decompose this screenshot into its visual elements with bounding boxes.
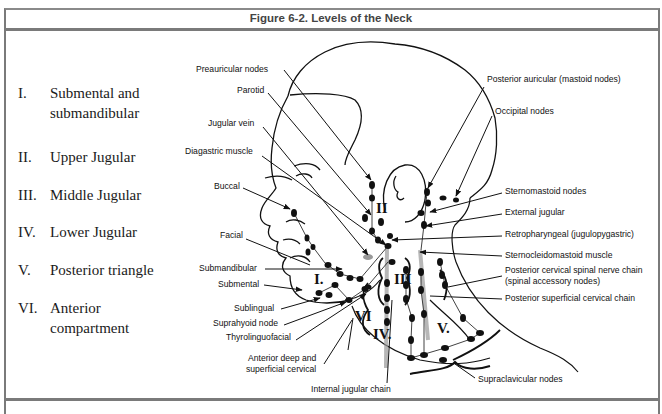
label-internal-jugular: Internal jugular chain xyxy=(311,384,391,394)
label-anterior-deep-2: superficial cervical xyxy=(246,364,316,374)
leader-retropharyngeal xyxy=(392,236,502,240)
leader-supraclavicular xyxy=(455,364,475,378)
label-posterior-superficial: Posterior superficial cervical chain xyxy=(505,293,635,303)
label-suprahyoid: Suprahyoid node xyxy=(213,318,278,328)
region-numeral-II: II xyxy=(376,200,388,216)
label-thyrolinguofacial: Thyrolinguofacial xyxy=(226,332,291,342)
label-anterior-deep-1: Anterior deep and xyxy=(248,353,317,363)
region-numeral-I: I. xyxy=(314,271,324,287)
leader-posterior-auricular xyxy=(428,87,484,188)
label-external-jugular: External jugular xyxy=(505,207,565,217)
label-preauricular: Preauricular nodes xyxy=(196,64,268,74)
label-jugular-vein: Jugular vein xyxy=(208,118,255,128)
label-sternocleidomastoid: Sternocleidomastoid muscle xyxy=(505,250,613,260)
label-diagastric: Diagastric muscle xyxy=(185,146,253,156)
label-facial: Facial xyxy=(220,230,243,240)
leader-sternomastoid xyxy=(430,193,502,212)
label-posterior-cervical-2: (spinal accessory nodes) xyxy=(505,276,600,286)
leader-posterior-superficial xyxy=(430,296,502,299)
leader-buccal xyxy=(243,188,290,209)
leader-sternocleidomastoid xyxy=(420,252,502,256)
region-numeral-III: III xyxy=(394,271,412,287)
leader-diagastric xyxy=(262,156,386,245)
label-submandibular: Submandibular xyxy=(199,263,257,273)
label-retropharyngeal: Retropharyngeal (jugulopygastric) xyxy=(505,229,634,239)
label-submental: Submental xyxy=(218,279,259,289)
leader-anterior-deep xyxy=(324,320,352,364)
label-sternomastoid: Sternomastoid nodes xyxy=(505,186,586,196)
region-numeral-V: V. xyxy=(437,320,450,336)
label-posterior-auricular: Posterior auricular (mastoid nodes) xyxy=(487,74,621,84)
label-parotid: Parotid xyxy=(237,85,264,95)
label-buccal: Buccal xyxy=(214,181,240,191)
label-sublingual: Sublingual xyxy=(234,303,274,313)
leader-submental xyxy=(264,285,302,290)
leader-sublingual xyxy=(281,298,320,309)
label-supraclavicular: Supraclavicular nodes xyxy=(478,374,563,384)
region-numeral-IV: IV. xyxy=(373,326,392,342)
region-numeral-VI: VI xyxy=(355,308,372,324)
neck-levels-diagram: I. II III IV. V. VI Preauricular nodes P… xyxy=(0,0,662,414)
label-occipital: Occipital nodes xyxy=(495,106,554,116)
leader-posterior-cervical xyxy=(448,276,502,287)
label-posterior-cervical-1: Posterior cervical spinal nerve chain xyxy=(505,265,643,275)
region-braces xyxy=(363,258,500,360)
